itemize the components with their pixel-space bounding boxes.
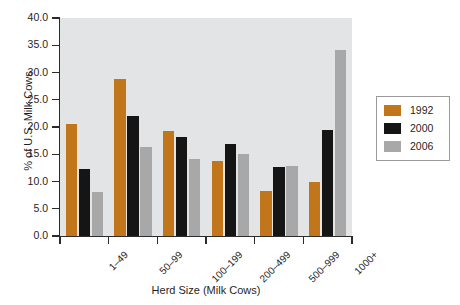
bar-1992-500999: [260, 191, 272, 236]
legend-item-2006[interactable]: 2006: [384, 141, 433, 152]
y-axis-tick: [52, 208, 59, 209]
x-axis-category-label: 100–199: [209, 249, 244, 284]
bar-1992-100199: [163, 131, 175, 236]
bar-2006-1000+: [335, 50, 347, 236]
y-axis-tick: [52, 235, 59, 236]
bar-chart: 0.05.010.015.020.025.030.035.040.0 1–495…: [0, 0, 460, 305]
x-axis-category-label: 500–999: [306, 249, 341, 284]
bar-1992-149: [66, 124, 78, 236]
bar-2000-100199: [176, 137, 188, 236]
x-axis-tick: [59, 237, 60, 244]
y-axis-tick: [52, 154, 59, 155]
x-axis-category-label: 200–499: [258, 249, 293, 284]
y-axis-tick: [52, 181, 59, 182]
legend-swatch-1992: [384, 105, 401, 116]
legend-swatch-2000: [384, 123, 401, 134]
bar-2000-500999: [273, 167, 285, 236]
x-axis-title: Herd Size (Milk Cows): [60, 284, 352, 296]
bar-1992-1000+: [309, 182, 321, 237]
legend: 199220002006: [376, 96, 450, 161]
x-axis-tick: [205, 237, 206, 244]
x-axis-category-label: 1000+: [352, 249, 380, 277]
y-axis-tick: [52, 126, 59, 127]
y-axis-tick: [52, 17, 59, 18]
x-axis-tick: [108, 237, 109, 244]
y-axis-tick: [52, 72, 59, 73]
bar-2000-5099: [127, 116, 139, 236]
y-axis-tick-label: 40.0: [0, 11, 48, 23]
x-axis-tick: [351, 237, 352, 244]
bar-1992-200499: [212, 161, 224, 236]
bars-layer: [60, 18, 352, 236]
bar-2000-1000+: [322, 130, 334, 236]
x-axis-category-label: 50–99: [157, 249, 184, 276]
bar-2006-149: [92, 192, 104, 236]
y-axis-title: % of U.S. Milk Cows: [22, 31, 34, 211]
legend-swatch-2006: [384, 141, 401, 152]
y-axis-tick: [52, 99, 59, 100]
x-axis-tick: [254, 237, 255, 244]
legend-item-1992[interactable]: 1992: [384, 105, 433, 116]
x-axis-tick: [303, 237, 304, 244]
legend-label: 2006: [410, 141, 433, 152]
x-axis-tick: [157, 237, 158, 244]
bar-2006-500999: [286, 166, 298, 236]
y-axis-tick: [52, 45, 59, 46]
legend-label: 2000: [410, 123, 433, 134]
bar-2006-5099: [140, 147, 152, 236]
bar-2000-149: [79, 169, 91, 236]
bar-2000-200499: [225, 144, 237, 236]
bar-2006-200499: [238, 154, 250, 236]
x-axis-category-label: 1–49: [107, 249, 131, 273]
bar-1992-5099: [114, 79, 126, 237]
legend-label: 1992: [410, 105, 433, 116]
y-axis-tick-label: 0.0: [0, 229, 48, 241]
legend-item-2000[interactable]: 2000: [384, 123, 433, 134]
bar-2006-100199: [189, 159, 201, 236]
